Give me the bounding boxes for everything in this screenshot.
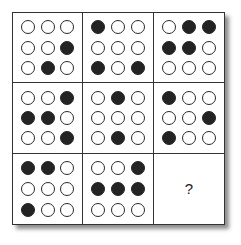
dot-matrix-puzzle-grid: ? bbox=[12, 12, 225, 225]
empty-circle-icon bbox=[131, 91, 145, 105]
empty-circle-icon bbox=[131, 131, 145, 145]
empty-circle-icon bbox=[131, 203, 145, 217]
puzzle-cell-r0-c1 bbox=[83, 13, 153, 83]
empty-circle-icon bbox=[21, 91, 35, 105]
empty-circle-icon bbox=[162, 20, 176, 34]
puzzle-cell-r1-c2 bbox=[154, 83, 224, 153]
empty-circle-icon bbox=[60, 203, 74, 217]
filled-circle-icon bbox=[111, 91, 125, 105]
empty-circle-icon bbox=[41, 91, 55, 105]
filled-circle-icon bbox=[60, 91, 74, 105]
empty-circle-icon bbox=[91, 131, 105, 145]
puzzle-cell-r1-c1 bbox=[83, 83, 153, 153]
filled-circle-icon bbox=[202, 111, 216, 125]
filled-circle-icon bbox=[162, 91, 176, 105]
empty-circle-icon bbox=[60, 20, 74, 34]
empty-circle-icon bbox=[60, 61, 74, 75]
empty-circle-icon bbox=[202, 41, 216, 55]
empty-circle-icon bbox=[21, 20, 35, 34]
puzzle-cell-r0-c0 bbox=[13, 13, 83, 83]
empty-circle-icon bbox=[111, 203, 125, 217]
filled-circle-icon bbox=[21, 161, 35, 175]
filled-circle-icon bbox=[60, 41, 74, 55]
empty-circle-icon bbox=[41, 20, 55, 34]
puzzle-cell-r0-c2 bbox=[154, 13, 224, 83]
empty-circle-icon bbox=[182, 91, 196, 105]
empty-circle-icon bbox=[202, 131, 216, 145]
empty-circle-icon bbox=[60, 111, 74, 125]
filled-circle-icon bbox=[60, 131, 74, 145]
filled-circle-icon bbox=[111, 182, 125, 196]
empty-circle-icon bbox=[41, 41, 55, 55]
missing-cell-question-mark: ? bbox=[185, 180, 193, 197]
empty-circle-icon bbox=[91, 203, 105, 217]
filled-circle-icon bbox=[111, 131, 125, 145]
empty-circle-icon bbox=[111, 20, 125, 34]
empty-circle-icon bbox=[21, 41, 35, 55]
filled-circle-icon bbox=[202, 20, 216, 34]
filled-circle-icon bbox=[41, 161, 55, 175]
empty-circle-icon bbox=[91, 91, 105, 105]
empty-circle-icon bbox=[21, 61, 35, 75]
empty-circle-icon bbox=[111, 61, 125, 75]
empty-circle-icon bbox=[91, 111, 105, 125]
puzzle-cell-r2-c0 bbox=[13, 154, 83, 224]
empty-circle-icon bbox=[41, 182, 55, 196]
empty-circle-icon bbox=[131, 41, 145, 55]
empty-circle-icon bbox=[41, 131, 55, 145]
filled-circle-icon bbox=[182, 41, 196, 55]
filled-circle-icon bbox=[91, 61, 105, 75]
filled-circle-icon bbox=[91, 182, 105, 196]
empty-circle-icon bbox=[21, 182, 35, 196]
empty-circle-icon bbox=[202, 91, 216, 105]
empty-circle-icon bbox=[91, 41, 105, 55]
empty-circle-icon bbox=[162, 61, 176, 75]
puzzle-cell-r2-c2[interactable]: ? bbox=[154, 154, 224, 224]
filled-circle-icon bbox=[162, 131, 176, 145]
empty-circle-icon bbox=[21, 131, 35, 145]
empty-circle-icon bbox=[111, 111, 125, 125]
empty-circle-icon bbox=[111, 161, 125, 175]
empty-circle-icon bbox=[162, 111, 176, 125]
filled-circle-icon bbox=[131, 182, 145, 196]
filled-circle-icon bbox=[41, 111, 55, 125]
puzzle-cell-r1-c0 bbox=[13, 83, 83, 153]
empty-circle-icon bbox=[111, 41, 125, 55]
empty-circle-icon bbox=[182, 61, 196, 75]
filled-circle-icon bbox=[131, 161, 145, 175]
filled-circle-icon bbox=[21, 111, 35, 125]
empty-circle-icon bbox=[131, 20, 145, 34]
filled-circle-icon bbox=[131, 61, 145, 75]
puzzle-cell-r2-c1 bbox=[83, 154, 153, 224]
filled-circle-icon bbox=[21, 203, 35, 217]
filled-circle-icon bbox=[182, 20, 196, 34]
empty-circle-icon bbox=[60, 182, 74, 196]
empty-circle-icon bbox=[131, 111, 145, 125]
empty-circle-icon bbox=[41, 203, 55, 217]
empty-circle-icon bbox=[60, 161, 74, 175]
empty-circle-icon bbox=[182, 111, 196, 125]
filled-circle-icon bbox=[162, 41, 176, 55]
empty-circle-icon bbox=[182, 131, 196, 145]
empty-circle-icon bbox=[202, 61, 216, 75]
filled-circle-icon bbox=[41, 61, 55, 75]
empty-circle-icon bbox=[91, 161, 105, 175]
filled-circle-icon bbox=[91, 20, 105, 34]
